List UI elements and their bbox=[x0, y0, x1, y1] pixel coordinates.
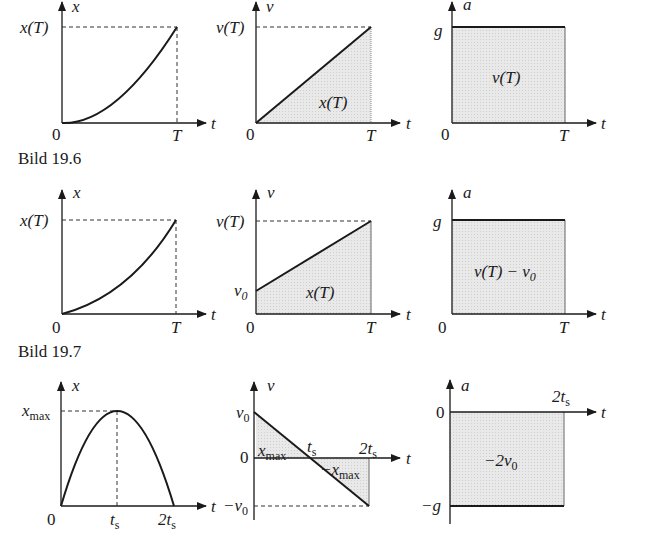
origin-label: 0 bbox=[52, 318, 61, 337]
row3-v-t-panel: v v0 0 −v0 xmax ts 2ts −xmax t bbox=[223, 376, 412, 520]
axis-label-t: t bbox=[406, 114, 412, 133]
mark-T: T bbox=[366, 126, 377, 145]
mark-v0: v0 bbox=[236, 403, 250, 425]
position-curve bbox=[62, 27, 177, 123]
axis-label-t: t bbox=[211, 497, 217, 516]
axis-label-t: t bbox=[601, 305, 607, 324]
mark-g: g bbox=[434, 21, 443, 40]
mark-v0: v0 bbox=[234, 281, 248, 303]
row1-v-t-panel: v v(T) x(T) t 0 T bbox=[216, 0, 412, 145]
mark-T: T bbox=[171, 318, 182, 337]
row3-a-t-panel: a 0 −g 2ts −2v0 t bbox=[421, 376, 607, 524]
row1-a-t-panel: a g v(T) t 0 T bbox=[434, 0, 607, 145]
axis-label-t: t bbox=[601, 403, 607, 422]
mark-xmax: xmax bbox=[21, 401, 50, 423]
axis-label-t: t bbox=[601, 114, 607, 133]
axis-label-v: v bbox=[267, 183, 275, 202]
origin-label: 0 bbox=[52, 125, 61, 144]
area-label: x(T) bbox=[305, 283, 335, 302]
axis-label-a: a bbox=[461, 376, 470, 395]
area-label: v(T) − v0 bbox=[474, 262, 536, 284]
axis-label-v: v bbox=[266, 0, 274, 16]
axis-label-x: x bbox=[72, 183, 81, 202]
axis-label-x: x bbox=[71, 376, 80, 395]
mark-T: T bbox=[559, 126, 570, 145]
row2-x-t-panel: x x(T) t 0 T bbox=[19, 183, 217, 337]
mark-T: T bbox=[366, 318, 377, 337]
mark-xT: x(T) bbox=[19, 211, 49, 230]
origin-label: 0 bbox=[441, 125, 450, 144]
zero-label: 0 bbox=[436, 403, 445, 422]
mark-T: T bbox=[172, 126, 183, 145]
row2-a-t-panel: a g v(T) − v0 t 0 T bbox=[433, 183, 607, 337]
axis-label-t: t bbox=[211, 305, 217, 324]
mark-g: g bbox=[433, 212, 442, 231]
axis-label-t: t bbox=[211, 114, 217, 133]
mark-ts: ts bbox=[307, 437, 317, 459]
zero-label: 0 bbox=[240, 448, 249, 467]
mark-2ts: 2ts bbox=[158, 510, 176, 532]
row3-x-t-panel: x xmax t 0 ts 2ts bbox=[21, 376, 217, 532]
caption-bild-19-6: Bild 19.6 bbox=[18, 149, 81, 168]
caption-bild-19-7: Bild 19.7 bbox=[18, 342, 82, 361]
mark-2ts: 2ts bbox=[552, 387, 570, 409]
area-label: x(T) bbox=[318, 93, 348, 112]
axis-label-a: a bbox=[463, 0, 472, 14]
origin-label: 0 bbox=[47, 510, 56, 529]
row1-x-t-panel: x x(T) t 0 T bbox=[19, 0, 217, 145]
mark-xT: x(T) bbox=[19, 18, 49, 37]
axis-label-t: t bbox=[406, 305, 412, 324]
axis-label-v: v bbox=[267, 376, 275, 395]
area-label: v(T) bbox=[492, 68, 521, 87]
axis-label-t: t bbox=[406, 449, 412, 468]
axis-label-a: a bbox=[463, 183, 472, 202]
origin-label: 0 bbox=[246, 125, 255, 144]
mark-ts: ts bbox=[110, 510, 120, 532]
row2-v-t-panel: v v(T) v0 x(T) t 0 T bbox=[216, 183, 412, 337]
mark-neg-v0: −v0 bbox=[223, 496, 248, 518]
origin-label: 0 bbox=[246, 318, 255, 337]
mark-T: T bbox=[559, 318, 570, 337]
mark-vT: v(T) bbox=[216, 18, 245, 37]
mark-neg-g: −g bbox=[421, 496, 441, 515]
kinematics-diagram: x x(T) t 0 T v v(T) x(T) t 0 T a g v(T) … bbox=[0, 0, 668, 546]
axis-label-x: x bbox=[71, 0, 80, 16]
origin-label: 0 bbox=[438, 318, 447, 337]
mark-2ts: 2ts bbox=[359, 439, 377, 461]
mark-vT: v(T) bbox=[216, 212, 245, 231]
position-curve bbox=[62, 220, 176, 314]
